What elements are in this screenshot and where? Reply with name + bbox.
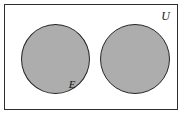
set-circle-f: F <box>100 24 170 94</box>
universal-set-rectangle: U E F <box>4 4 178 110</box>
venn-diagram-figure: U E F <box>0 0 186 118</box>
set-label-e: E <box>69 79 76 90</box>
set-circle-e: E <box>21 24 90 94</box>
universal-set-label: U <box>161 10 170 22</box>
